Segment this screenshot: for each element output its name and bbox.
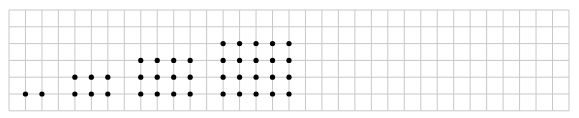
dot [221,91,226,96]
dot [23,91,28,96]
dot [253,91,258,96]
dot [72,75,77,80]
dot [253,75,258,80]
dot [237,41,242,46]
dot [138,75,143,80]
dot [89,75,94,80]
dot [105,75,110,80]
dot [253,58,258,63]
dot [155,91,160,96]
dot [155,58,160,63]
dot [171,75,176,80]
dot [237,91,242,96]
dot [188,91,193,96]
dot [286,58,291,63]
dot [253,41,258,46]
dot [270,41,275,46]
dot [188,58,193,63]
dot-grid-diagram [0,0,579,118]
dot [171,58,176,63]
dot [89,91,94,96]
dot [188,75,193,80]
dot [221,58,226,63]
dot [237,58,242,63]
dot [270,58,275,63]
dot [270,75,275,80]
dot [270,91,275,96]
dot [221,41,226,46]
dot [72,91,77,96]
dot [138,91,143,96]
dot [105,91,110,96]
dot [171,91,176,96]
dot [237,75,242,80]
dot [286,41,291,46]
dot [286,91,291,96]
dot [286,75,291,80]
dot [221,75,226,80]
dot [39,91,44,96]
dot [155,75,160,80]
dot [138,58,143,63]
